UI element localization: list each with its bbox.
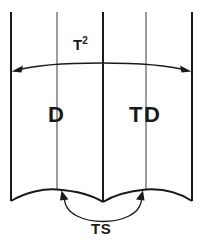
label-d: D [48, 104, 64, 126]
top-dimension-arrow-left [12, 66, 24, 73]
label-t-squared-base: T [73, 36, 82, 53]
label-ts: TS [91, 221, 111, 236]
label-t-squared: T2 [73, 36, 88, 52]
top-dimension-arrow-right [180, 66, 192, 73]
bottom-scallop-left [11, 189, 103, 202]
bottom-dimension-arrow-right [136, 191, 145, 201]
bottom-dimension-arrow-left [60, 191, 69, 201]
bottom-scallop-right [103, 189, 192, 202]
label-td: TD [129, 104, 161, 126]
diagram-canvas: T2 D TD TS [0, 0, 207, 246]
top-dimension-arc [16, 63, 187, 71]
label-t-squared-exponent: 2 [82, 35, 88, 46]
technical-drawing-svg [0, 0, 207, 246]
